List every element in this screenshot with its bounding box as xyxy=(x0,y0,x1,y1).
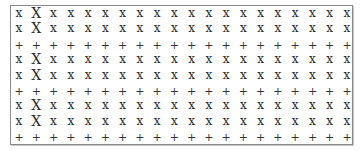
plus-mark: + xyxy=(184,37,200,52)
plus-mark: + xyxy=(97,37,113,52)
lowercase-x-mark: x xyxy=(149,52,165,67)
lowercase-x-mark: x xyxy=(80,98,96,113)
lowercase-x-mark: x xyxy=(235,52,251,67)
lowercase-x-mark: x xyxy=(218,52,234,67)
plus-mark: + xyxy=(218,37,234,52)
lowercase-x-mark: x xyxy=(11,6,27,21)
lowercase-x-mark: x xyxy=(339,113,355,128)
symbol-grid: xXxxxxxxxxxxxxxxxxxxxXxxxxxxxxxxxxxxxxxx… xyxy=(0,0,362,151)
plus-mark: + xyxy=(11,37,27,52)
plus-mark: + xyxy=(218,130,234,145)
lowercase-x-mark: x xyxy=(46,113,62,128)
plus-mark: + xyxy=(11,83,27,98)
lowercase-x-mark: x xyxy=(149,6,165,21)
lowercase-x-mark: x xyxy=(253,6,269,21)
lowercase-x-mark: x xyxy=(270,67,286,82)
plus-mark: + xyxy=(235,130,251,145)
lowercase-x-mark: x xyxy=(235,6,251,21)
lowercase-x-mark: x xyxy=(149,98,165,113)
plus-mark: + xyxy=(46,37,62,52)
lowercase-x-mark: x xyxy=(201,21,217,36)
plus-mark: + xyxy=(184,83,200,98)
lowercase-x-mark: x xyxy=(149,21,165,36)
lowercase-x-mark: x xyxy=(184,113,200,128)
lowercase-x-mark: x xyxy=(80,67,96,82)
lowercase-x-mark: x xyxy=(97,52,113,67)
lowercase-x-mark: x xyxy=(270,113,286,128)
lowercase-x-mark: x xyxy=(339,98,355,113)
plus-mark: + xyxy=(97,130,113,145)
plus-mark: + xyxy=(201,130,217,145)
lowercase-x-mark: x xyxy=(201,113,217,128)
lowercase-x-mark: x xyxy=(339,21,355,36)
plus-mark: + xyxy=(80,83,96,98)
plus-mark: + xyxy=(149,83,165,98)
lowercase-x-mark: x xyxy=(305,67,321,82)
lowercase-x-mark: x xyxy=(339,52,355,67)
plus-mark: + xyxy=(132,130,148,145)
plus-mark: + xyxy=(166,130,182,145)
plus-mark: + xyxy=(184,130,200,145)
plus-mark: + xyxy=(115,37,131,52)
lowercase-x-mark: x xyxy=(63,6,79,21)
lowercase-x-mark: x xyxy=(115,52,131,67)
lowercase-x-mark: x xyxy=(322,113,338,128)
lowercase-x-mark: x xyxy=(46,6,62,21)
uppercase-x-mark: X xyxy=(28,98,44,113)
plus-mark: + xyxy=(270,83,286,98)
lowercase-x-mark: x xyxy=(287,52,303,67)
lowercase-x-mark: x xyxy=(287,113,303,128)
lowercase-x-mark: x xyxy=(166,52,182,67)
lowercase-x-mark: x xyxy=(253,113,269,128)
plus-mark: + xyxy=(166,83,182,98)
plus-mark: + xyxy=(218,83,234,98)
uppercase-x-mark: X xyxy=(28,21,44,36)
lowercase-x-mark: x xyxy=(11,52,27,67)
plus-mark: + xyxy=(46,83,62,98)
lowercase-x-mark: x xyxy=(11,113,27,128)
lowercase-x-mark: x xyxy=(184,98,200,113)
lowercase-x-mark: x xyxy=(115,113,131,128)
lowercase-x-mark: x xyxy=(339,67,355,82)
lowercase-x-mark: x xyxy=(46,52,62,67)
lowercase-x-mark: x xyxy=(270,21,286,36)
lowercase-x-mark: x xyxy=(80,113,96,128)
plus-mark: + xyxy=(80,130,96,145)
plus-mark: + xyxy=(11,130,27,145)
plus-mark: + xyxy=(253,130,269,145)
plus-mark: + xyxy=(339,130,355,145)
plus-mark: + xyxy=(132,83,148,98)
lowercase-x-mark: x xyxy=(322,52,338,67)
plus-mark: + xyxy=(287,130,303,145)
lowercase-x-mark: x xyxy=(132,6,148,21)
lowercase-x-mark: x xyxy=(80,6,96,21)
lowercase-x-mark: x xyxy=(322,6,338,21)
lowercase-x-mark: x xyxy=(166,6,182,21)
plus-mark: + xyxy=(253,83,269,98)
lowercase-x-mark: x xyxy=(218,6,234,21)
lowercase-x-mark: x xyxy=(218,98,234,113)
lowercase-x-mark: x xyxy=(218,21,234,36)
uppercase-x-mark: X xyxy=(28,52,44,67)
plus-mark: + xyxy=(97,83,113,98)
lowercase-x-mark: x xyxy=(253,98,269,113)
lowercase-x-mark: x xyxy=(305,98,321,113)
lowercase-x-mark: x xyxy=(201,98,217,113)
lowercase-x-mark: x xyxy=(201,6,217,21)
lowercase-x-mark: x xyxy=(287,6,303,21)
lowercase-x-mark: x xyxy=(149,113,165,128)
plus-mark: + xyxy=(132,37,148,52)
lowercase-x-mark: x xyxy=(339,6,355,21)
lowercase-x-mark: x xyxy=(166,98,182,113)
plus-mark: + xyxy=(322,130,338,145)
uppercase-x-mark: X xyxy=(28,6,44,21)
plus-mark: + xyxy=(80,37,96,52)
lowercase-x-mark: x xyxy=(115,98,131,113)
lowercase-x-mark: x xyxy=(287,98,303,113)
lowercase-x-mark: x xyxy=(63,67,79,82)
lowercase-x-mark: x xyxy=(287,67,303,82)
lowercase-x-mark: x xyxy=(46,67,62,82)
plus-mark: + xyxy=(201,37,217,52)
lowercase-x-mark: x xyxy=(11,98,27,113)
plus-mark: + xyxy=(235,83,251,98)
